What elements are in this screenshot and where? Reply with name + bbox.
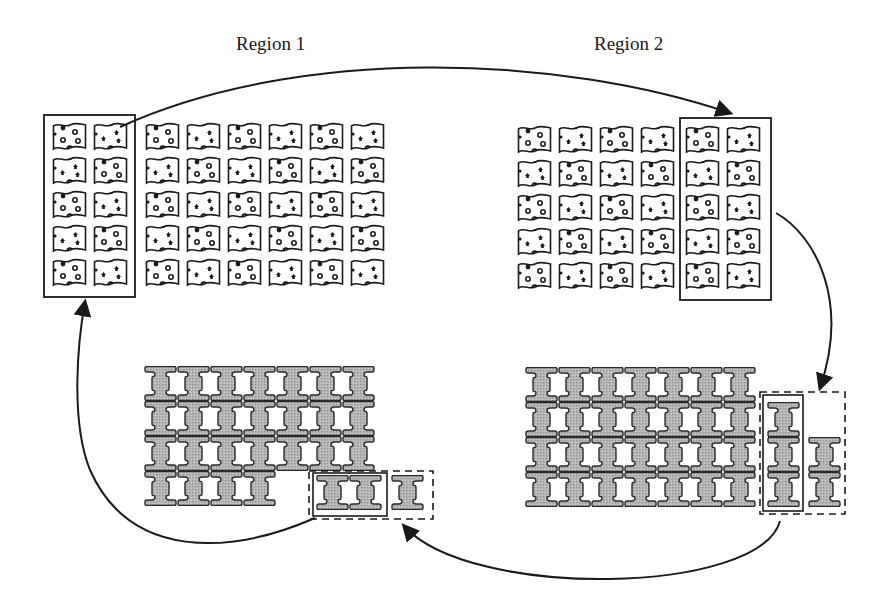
flag-tile: [94, 157, 126, 183]
h-block-tile: [526, 368, 557, 402]
flag-tile: [187, 259, 219, 285]
h-block-tile: [145, 437, 176, 471]
flag-tile: [310, 259, 342, 285]
h-block-tile-moved: [317, 476, 348, 510]
flag-tile: [53, 191, 85, 217]
flag-tile: [269, 123, 301, 149]
h-block-tile: [244, 437, 275, 471]
h-block-tile-moved: [768, 473, 799, 507]
flag-tile: [727, 228, 759, 254]
flag-tile: [310, 225, 342, 251]
flag-tile: [187, 225, 219, 251]
h-block-tile: [211, 402, 242, 436]
h-block-tile: [310, 437, 341, 471]
flag-tile: [228, 191, 260, 217]
h-block-tile: [625, 403, 656, 437]
flag-tile: [641, 228, 673, 254]
h-block-tile: [724, 403, 755, 437]
flag-tile: [310, 157, 342, 183]
flag-tile: [600, 262, 632, 288]
region2-flag-grid: [518, 126, 759, 288]
flag-tile: [686, 262, 718, 288]
diagram-svg: [0, 0, 889, 612]
h-block-tile: [658, 368, 689, 402]
h-block-tile-moved: [809, 438, 840, 472]
h-block-tile: [559, 368, 590, 402]
flag-tile: [686, 126, 718, 152]
h-block-tile: [724, 438, 755, 472]
flag-tile: [269, 157, 301, 183]
h-block-tile: [310, 367, 341, 401]
h-block-tile: [625, 368, 656, 402]
region1-flag-grid: [53, 123, 383, 285]
flag-tile: [53, 259, 85, 285]
flag-tile: [600, 228, 632, 254]
h-block-tile: [526, 473, 557, 507]
h-block-tile: [559, 473, 590, 507]
h-block-tile: [310, 402, 341, 436]
flag-tile: [310, 191, 342, 217]
region1-h-grid: [145, 367, 423, 510]
flag-tile: [686, 228, 718, 254]
flag-tile: [269, 191, 301, 217]
flag-tile: [727, 262, 759, 288]
h-block-tile: [724, 368, 755, 402]
h-block-tile: [277, 402, 308, 436]
h-block-tile: [559, 403, 590, 437]
flag-tile: [187, 157, 219, 183]
region-1-label: Region 1: [236, 33, 305, 55]
flag-tile: [228, 259, 260, 285]
diagram-canvas: Region 1 Region 2: [0, 0, 889, 612]
flag-tile: [641, 160, 673, 186]
flag-grids: [53, 123, 759, 288]
flag-tile: [559, 262, 591, 288]
arrow-region2-flags-to-h-strip: [776, 213, 831, 388]
h-block-tile: [211, 367, 242, 401]
h-block-tile: [691, 438, 722, 472]
h-block-tile: [625, 473, 656, 507]
flag-tile: [146, 259, 178, 285]
region2-h-grid: [526, 368, 840, 507]
h-block-tile: [691, 403, 722, 437]
h-block-tile: [211, 472, 242, 506]
flag-tile: [518, 194, 550, 220]
h-block-tile: [559, 438, 590, 472]
h-block-tile: [691, 473, 722, 507]
flag-tile: [600, 194, 632, 220]
h-block-tile-moved: [809, 473, 840, 507]
h-block-tile: [244, 402, 275, 436]
h-block-tile: [592, 403, 623, 437]
flag-tile: [559, 228, 591, 254]
h-block-tile: [343, 367, 374, 401]
flag-tile: [94, 225, 126, 251]
h-block-tile: [178, 367, 209, 401]
flag-tile: [228, 157, 260, 183]
flag-tile: [351, 259, 383, 285]
h-block-tile-moved: [768, 438, 799, 472]
h-block-tile: [691, 368, 722, 402]
flag-tile: [94, 259, 126, 285]
flag-tile: [641, 262, 673, 288]
flag-tile: [146, 191, 178, 217]
h-block-tile: [244, 367, 275, 401]
flag-tile: [228, 123, 260, 149]
flag-tile: [146, 157, 178, 183]
flag-tile: [187, 123, 219, 149]
h-block-tile-moved: [392, 476, 423, 510]
h-block-tile: [145, 402, 176, 436]
flag-tile: [351, 191, 383, 217]
flag-tile: [600, 160, 632, 186]
h-block-tile: [277, 367, 308, 401]
h-block-tile: [178, 472, 209, 506]
flag-tile: [351, 123, 383, 149]
flag-tile: [641, 126, 673, 152]
flag-tile: [146, 123, 178, 149]
h-block-tile: [658, 438, 689, 472]
flag-tile: [518, 228, 550, 254]
flag-tile: [310, 123, 342, 149]
flag-tile: [187, 191, 219, 217]
flag-tile: [600, 126, 632, 152]
flag-tile: [686, 194, 718, 220]
flag-tile: [53, 225, 85, 251]
h-block-tile: [277, 437, 308, 471]
